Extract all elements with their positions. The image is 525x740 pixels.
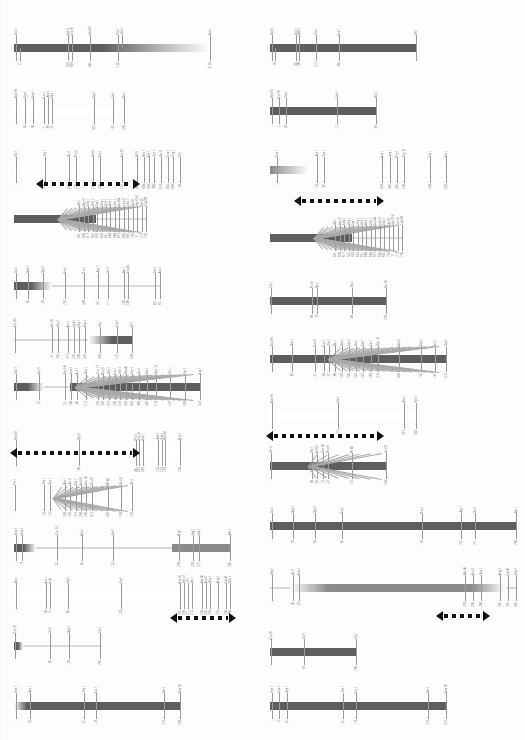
tick-mark-bottom <box>117 340 118 353</box>
tick-mark-bottom <box>16 170 17 183</box>
enzyme-label-top: Acc I <box>435 340 438 346</box>
position-label-bottom: 1 <box>15 354 18 356</box>
tick-mark-bottom <box>68 340 69 353</box>
enzyme-label-top: Alu I <box>79 200 82 206</box>
position-label-bottom: 227 <box>199 562 202 567</box>
tick-mark-top <box>324 157 325 170</box>
tick-mark-bottom <box>52 340 53 353</box>
position-label-bottom: 37 <box>299 602 302 605</box>
position-label-bottom: 112 <box>337 125 340 129</box>
enzyme-label-top: Dra I <box>430 151 433 157</box>
tick-mark-bottom <box>446 706 447 719</box>
tick-mark-top <box>382 157 383 170</box>
enzyme-label-top: Ban I <box>481 568 484 575</box>
position-label-bottom: 84 <box>50 660 53 663</box>
enzyme-label-top: Bsr GI <box>386 280 389 288</box>
tick-mark-top <box>317 157 318 170</box>
enzyme-label-top: Stu I <box>113 92 116 98</box>
tick-mark-top <box>430 157 431 170</box>
enzyme-label-top: Bmg I <box>500 568 503 575</box>
tick-mark-bottom <box>100 646 101 659</box>
arrow-head-left <box>36 179 43 189</box>
enzyme-label-top: Bam HI <box>16 89 19 98</box>
tick-mark-top <box>165 440 166 453</box>
position-label-bottom: 1 <box>272 125 275 127</box>
enzyme-label-top: Bsg I <box>200 368 203 374</box>
position-label-bottom: 119 <box>96 720 99 724</box>
enzyme-label-top: Bst XI <box>121 477 124 485</box>
tick-mark-top <box>122 157 123 170</box>
tick-mark-top <box>146 206 147 219</box>
enzyme-label-top: Nhe I <box>404 396 407 403</box>
tick-mark-top <box>272 403 273 416</box>
tick-mark-top <box>137 206 138 219</box>
tick-mark-top <box>144 157 145 170</box>
coverage-bar <box>270 522 516 530</box>
position-label-bottom: 384 <box>397 184 400 189</box>
tick-mark-bottom <box>516 526 517 539</box>
enzyme-label-top: Sma I <box>16 528 19 535</box>
position-label-bottom: 1 <box>15 660 18 662</box>
tick-mark-bottom <box>271 301 272 314</box>
position-label-bottom: 26 <box>286 125 289 128</box>
expansion-link-arrow <box>266 430 384 441</box>
tick-mark-top <box>465 575 466 588</box>
tick-mark-bottom <box>293 526 294 539</box>
position-label-bottom: 63 <box>28 300 31 303</box>
enzyme-label-top: Cla I <box>356 633 359 639</box>
enzyme-label-top: Afl II <box>137 151 140 157</box>
tick-mark-top <box>30 693 31 706</box>
tick-mark-bottom <box>100 340 101 353</box>
sequence-map: Sma IApa IKpn IBsa ISap IPml IEsp 3IDra … <box>270 152 446 188</box>
tick-mark-bottom <box>317 301 318 314</box>
position-label-bottom: 1 <box>16 467 19 469</box>
position-label-bottom: 376 <box>108 512 111 517</box>
tick-mark-bottom <box>173 170 174 183</box>
enzyme-label-top: Avr II <box>70 478 73 485</box>
enzyme-label-top: Mlu I <box>149 151 152 157</box>
tick-mark-top <box>356 639 357 652</box>
tick-mark-bottom <box>337 111 338 124</box>
tick-mark-bottom <box>16 548 17 561</box>
position-label-bottom: 484 <box>435 373 438 378</box>
enzyme-label-top: Ban I <box>210 576 213 583</box>
tick-mark-bottom <box>397 170 398 183</box>
tick-mark-top <box>393 225 394 238</box>
tick-mark-bottom <box>94 111 95 124</box>
position-label-bottom: 290 <box>86 512 89 517</box>
position-label-bottom: 119 <box>356 720 359 724</box>
tick-mark-bottom <box>404 416 405 429</box>
position-label-bottom: 164 <box>324 184 327 189</box>
tick-mark-top <box>16 157 17 170</box>
position-label-bottom: 532 <box>446 184 449 189</box>
tick-mark-bottom <box>69 646 70 659</box>
tick-mark-bottom <box>210 596 211 609</box>
tick-mark-bottom <box>15 646 16 659</box>
enzyme-label-top: Bbe I <box>109 367 112 374</box>
position-label-bottom: 326 <box>85 354 88 359</box>
enzyme-label-top: Eco RI <box>271 631 274 639</box>
tick-mark-bottom <box>50 646 51 659</box>
tick-mark-bottom <box>50 498 51 511</box>
tick-mark-bottom <box>84 706 85 719</box>
position-label-bottom: 248 <box>386 480 389 485</box>
tick-mark-top <box>22 535 23 548</box>
tick-mark-top <box>124 273 125 286</box>
tick-mark-bottom <box>84 286 85 299</box>
tick-mark-top <box>185 374 186 387</box>
tick-mark-bottom <box>272 588 273 601</box>
tick-mark-top <box>96 693 97 706</box>
tick-mark-bottom <box>161 170 162 183</box>
tick-mark-top <box>16 98 17 111</box>
tick-mark-top <box>398 225 399 238</box>
tick-mark-bottom <box>144 170 145 183</box>
position-label-bottom: 190 <box>352 315 355 320</box>
tick-mark-bottom <box>342 526 343 539</box>
tick-mark-bottom <box>428 706 429 719</box>
position-label-bottom: 101 <box>84 720 87 725</box>
enzyme-label-top: Bts I <box>113 529 116 535</box>
enzyme-label-top: Bsu 36 <box>323 444 326 453</box>
position-label-bottom: 284 <box>500 602 503 607</box>
tick-mark-top <box>428 693 429 706</box>
tick-mark-top <box>16 35 17 48</box>
